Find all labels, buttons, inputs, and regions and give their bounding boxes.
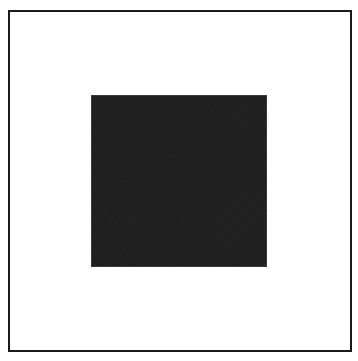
inner-filled-square <box>92 96 266 266</box>
